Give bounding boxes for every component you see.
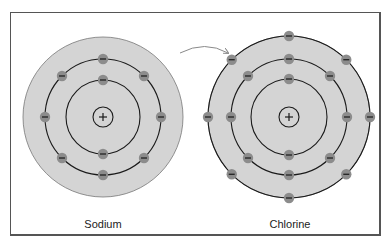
electron-icon [98, 54, 108, 64]
electron-icon [139, 71, 149, 81]
electron-icon [227, 55, 237, 65]
nucleus-plus-icon [279, 107, 299, 127]
atom-sodium [23, 37, 183, 197]
electron-icon [325, 71, 335, 81]
electron-icon [57, 153, 67, 163]
electron-icon [226, 112, 236, 122]
electron-transfer-arrow [180, 47, 228, 54]
electron-icon [243, 71, 253, 81]
nucleus-plus-icon [93, 107, 113, 127]
atom-chlorine [203, 31, 375, 203]
chlorine-label: Chlorine [270, 218, 311, 230]
electron-icon [98, 149, 108, 159]
electron-icon [341, 169, 351, 179]
ionic-bond-diagram [0, 0, 392, 243]
electron-icon [139, 153, 149, 163]
electron-icon [341, 55, 351, 65]
electron-icon [98, 75, 108, 85]
electron-icon [284, 193, 294, 203]
electron-icon [57, 71, 67, 81]
electron-icon [284, 170, 294, 180]
electron-icon [284, 31, 294, 41]
electron-icon [284, 150, 294, 160]
electron-icon [156, 112, 166, 122]
electron-icon [203, 112, 213, 122]
sodium-label: Sodium [84, 218, 121, 230]
electron-icon [243, 153, 253, 163]
electron-icon [365, 112, 375, 122]
electron-icon [284, 54, 294, 64]
electron-icon [40, 112, 50, 122]
electron-icon [342, 112, 352, 122]
electron-icon [284, 74, 294, 84]
electron-icon [227, 169, 237, 179]
electron-icon [98, 170, 108, 180]
electron-icon [325, 153, 335, 163]
